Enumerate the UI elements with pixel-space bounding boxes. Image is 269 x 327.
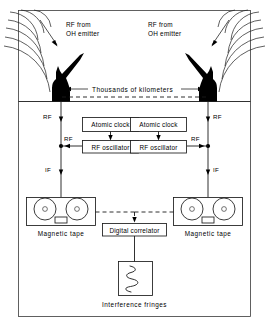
right-atomic-clock-label: Atomic clock <box>139 121 178 128</box>
right-source-label-line1: RF from <box>148 21 173 28</box>
vlbi-interferometry-diagram: RF from OH emitter RF from OH emitter <box>0 0 269 327</box>
right-rf-top-label: RF <box>213 113 222 120</box>
left-atomic-clock-label: Atomic clock <box>91 121 130 128</box>
left-if-label: IF <box>45 166 51 173</box>
interference-fringes-box <box>119 262 153 296</box>
right-tape-label: Magnetic tape <box>185 230 232 238</box>
left-tape-hub-takeup <box>75 207 80 212</box>
right-tape-head <box>202 217 214 223</box>
right-tape-hub-takeup <box>222 207 227 212</box>
right-rf-oscillator-label: RF oscillator <box>139 144 178 151</box>
baseline-distance-label: Thousands of kilometers <box>92 86 173 93</box>
digital-correlator-label: Digital correlator <box>109 227 160 235</box>
left-rf-top-label: RF <box>43 113 52 120</box>
left-rf-oscillator-label: RF oscillator <box>91 144 130 151</box>
left-source-label-line1: RF from <box>66 21 91 28</box>
left-source-label-line2: OH emitter <box>66 30 100 37</box>
right-rf-mid-label: RF <box>191 135 200 142</box>
right-source-label-line2: OH emitter <box>148 30 182 37</box>
right-tape-hub-supply <box>190 207 195 212</box>
left-tape-head <box>55 217 67 223</box>
interference-fringes-label: Interference fringes <box>102 301 167 309</box>
left-rf-mid-label: RF <box>64 135 73 142</box>
left-tape-hub-supply <box>43 207 48 212</box>
left-tape-label: Magnetic tape <box>38 230 85 238</box>
right-if-label: IF <box>213 166 219 173</box>
